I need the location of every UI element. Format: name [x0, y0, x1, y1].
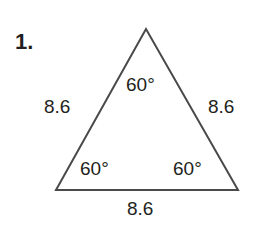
side-label-left: 8.6 [44, 97, 70, 116]
angle-label-bottom-right: 60° [173, 159, 202, 178]
angle-label-bottom-left: 60° [80, 159, 109, 178]
side-label-right: 8.6 [208, 97, 234, 116]
side-label-bottom: 8.6 [127, 199, 153, 218]
angle-label-top: 60° [126, 75, 155, 94]
